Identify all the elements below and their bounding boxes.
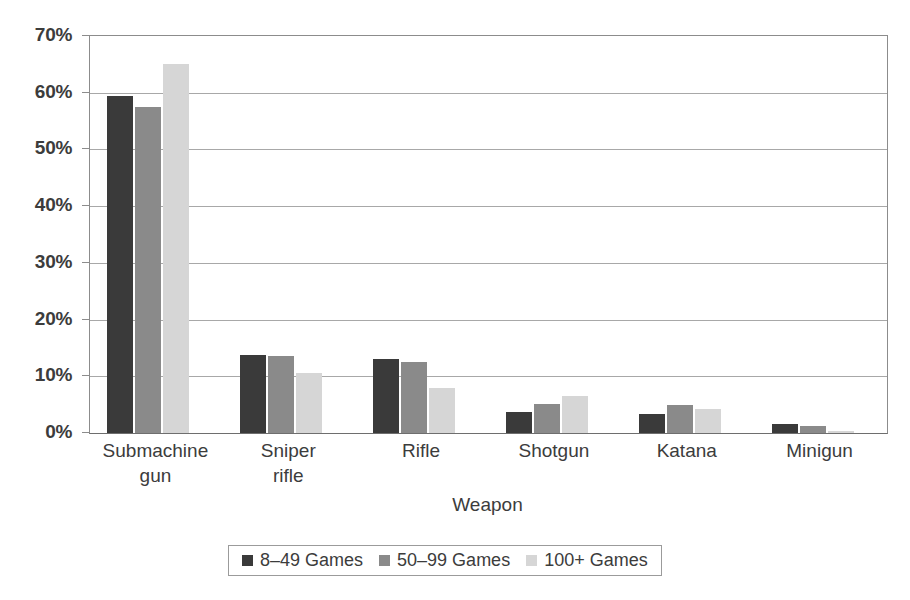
y-axis-tick-label: 40% [35,194,72,216]
bar [401,362,427,433]
x-axis: Submachine gunSniper rifleRifleShotgunKa… [89,438,886,498]
bar-group [90,36,223,433]
bar-group [356,36,489,433]
bar [107,96,133,433]
y-axis-tick-label: 0% [45,421,72,443]
y-axis-tick-mark [82,92,89,93]
legend-label: 100+ Games [544,550,648,571]
bar [163,64,189,433]
bar [506,412,532,433]
legend-swatch-icon [526,555,537,566]
bar [240,355,266,433]
bar [667,405,693,433]
x-axis-tick-label: Rifle [355,438,488,463]
legend-item[interactable]: 50–99 Games [379,550,510,571]
bar [534,404,560,433]
y-axis-tick-mark [82,432,89,433]
bar [135,107,161,433]
legend: 8–49 Games50–99 Games100+ Games [228,545,662,576]
y-axis-tick-label: 60% [35,81,72,103]
bar [772,424,798,433]
y-axis-tick-mark [82,375,89,376]
x-axis-tick-label: Submachine gun [89,438,222,488]
y-axis-tick-label: 50% [35,137,72,159]
x-axis-title: Weapon [89,494,886,516]
legend-item[interactable]: 8–49 Games [242,550,363,571]
y-axis-tick-mark [82,205,89,206]
legend-label: 8–49 Games [260,550,363,571]
legend-label: 50–99 Games [397,550,510,571]
bar [639,414,665,433]
y-axis-tick-label: 10% [35,364,72,386]
bar-group [754,36,887,433]
y-axis-tick-mark [82,319,89,320]
legend-item[interactable]: 100+ Games [526,550,648,571]
y-axis-tick-label: 70% [35,24,72,46]
bars-layer [90,36,887,433]
bar [296,373,322,433]
bar [429,388,455,433]
x-axis-tick-label: Katana [620,438,753,463]
legend-swatch-icon [242,555,253,566]
bar [695,409,721,433]
bar [828,431,854,433]
bar [268,356,294,433]
y-axis-tick-label: 20% [35,308,72,330]
bar-group [223,36,356,433]
x-axis-tick-label: Shotgun [488,438,621,463]
bar-group [489,36,622,433]
y-axis-tick-mark [82,262,89,263]
y-axis-tick-label: 30% [35,251,72,273]
plot-area [89,35,888,434]
y-axis: 0%10%20%30%40%50%60%70% [0,0,82,600]
x-axis-tick-label: Minigun [753,438,886,463]
bar-group [621,36,754,433]
bar [562,396,588,433]
legend-swatch-icon [379,555,390,566]
bar-chart-figure: 0%10%20%30%40%50%60%70% Submachine gunSn… [0,0,910,600]
bar [800,426,826,433]
bar [373,359,399,433]
y-axis-tick-mark [82,148,89,149]
y-axis-tick-mark [82,35,89,36]
x-axis-tick-label: Sniper rifle [222,438,355,488]
